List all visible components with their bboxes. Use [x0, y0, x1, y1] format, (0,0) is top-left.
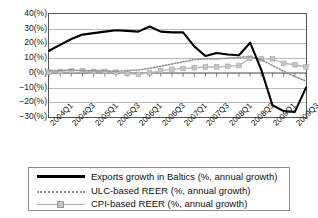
data-point-marker-cpi [181, 66, 186, 71]
legend-item-exports: Exports growth in Baltics (%, annual gro… [29, 170, 289, 184]
chart-container: 40(%)30(%)20(%)10(%)0(%)−10(%)−20(%)−30(… [0, 0, 318, 218]
legend-item-label: CPI-based REER (%, annual growth) [91, 199, 247, 209]
solid-line-key [29, 171, 91, 183]
y-tick-label: 30(%) [1, 24, 47, 32]
chart-legend: Exports growth in Baltics (%, annual gro… [28, 167, 290, 211]
x-axis: 2004Q12004Q32005Q12005Q32006Q12006Q32007… [0, 118, 318, 164]
data-point-marker-cpi [304, 65, 309, 70]
y-tick-label: −10(%) [1, 83, 47, 91]
y-tick-label: 20(%) [1, 38, 47, 46]
data-point-marker-cpi [125, 71, 130, 76]
dotted-line-key [29, 185, 91, 197]
y-axis: 40(%)30(%)20(%)10(%)0(%)−10(%)−20(%)−30(… [0, 0, 47, 131]
y-tick-label: 10(%) [1, 53, 47, 61]
data-point-marker-cpi [147, 71, 152, 76]
data-point-marker-cpi [237, 63, 242, 68]
data-point-marker-cpi [270, 57, 275, 62]
square-marker-line-key [29, 198, 91, 210]
data-point-marker-cpi [214, 65, 219, 70]
y-tick-label: −20(%) [1, 97, 47, 105]
legend-item-cpi: CPI-based REER (%, annual growth) [29, 197, 289, 211]
legend-item-label: Exports growth in Baltics (%, annual gro… [91, 172, 277, 182]
data-point-marker-cpi [281, 61, 286, 66]
y-tick-label: 0(%) [1, 68, 47, 76]
data-point-marker-cpi [225, 64, 230, 69]
data-point-marker-cpi [203, 65, 208, 70]
y-tick-label: 40(%) [1, 9, 47, 17]
data-point-marker-cpi [170, 67, 175, 72]
legend-item-ulc: ULC-based REER (%, annual growth) [29, 184, 289, 198]
data-point-marker-cpi [158, 68, 163, 73]
series-line-cpi-based-reer [49, 58, 306, 74]
legend-item-label: ULC-based REER (%, annual growth) [91, 186, 250, 196]
data-point-marker-cpi [293, 62, 298, 67]
data-point-marker-cpi [136, 72, 141, 77]
data-point-marker-cpi [192, 65, 197, 70]
